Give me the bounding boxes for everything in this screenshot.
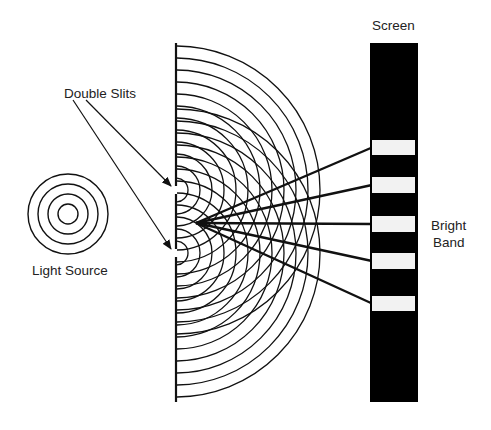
bright-band-5	[372, 296, 415, 311]
light-source-label: Light Source	[32, 263, 108, 278]
double-slit-diagram: Double Slits Light Source Screen Bright …	[0, 0, 491, 430]
arrow-to-lower-slit	[73, 100, 171, 249]
arrow-to-upper-slit	[86, 100, 171, 186]
interference-rays	[196, 148, 372, 304]
light-source-icon	[28, 174, 108, 254]
bright-band-3	[372, 216, 415, 232]
bright-band-label-line2: Band	[433, 235, 465, 250]
bright-band-label-line1: Bright	[431, 218, 467, 233]
bright-band-1	[372, 140, 415, 155]
double-slits-label: Double Slits	[64, 86, 136, 101]
screen-label: Screen	[372, 18, 415, 33]
bright-band-4	[372, 253, 415, 269]
bright-band-2	[372, 177, 415, 193]
